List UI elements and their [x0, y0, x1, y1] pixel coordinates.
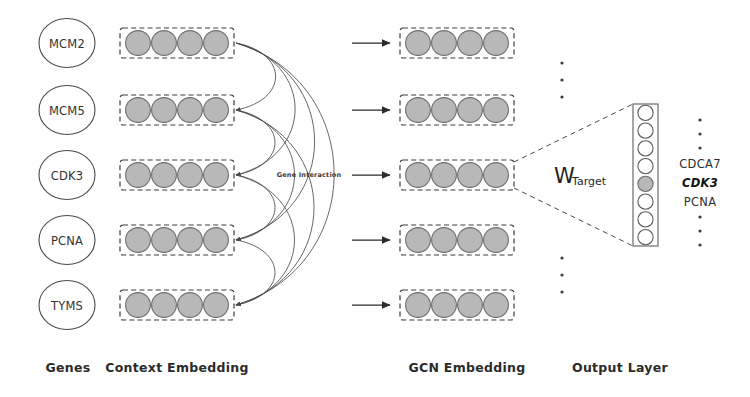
- embedding-unit-circle: [432, 98, 457, 123]
- embedding-unit-circle: [406, 98, 431, 123]
- architecture-diagram: MCM2MCM5CDK3PCNATYMS CDCA7CDK3PCNA Genes…: [0, 0, 750, 397]
- output-node[interactable]: [638, 159, 653, 174]
- ellipsis-dot: [560, 78, 563, 81]
- embedding-unit-circle: [406, 228, 431, 253]
- output-layer-column: [633, 104, 658, 246]
- context-embedding-box[interactable]: [120, 225, 234, 255]
- output-label-dot: [698, 215, 701, 218]
- gcn-embedding-box[interactable]: [400, 160, 514, 190]
- embedding-unit-circle: [152, 293, 177, 318]
- embedding-unit-circle: [458, 228, 483, 253]
- gene-interaction-label: Gene Interaction: [277, 171, 342, 179]
- section-label: Output Layer: [572, 360, 669, 375]
- embedding-unit-circle: [178, 31, 203, 56]
- context-embedding-box[interactable]: [120, 28, 234, 58]
- embedding-unit-circle: [204, 98, 229, 123]
- gcn-embedding-box[interactable]: [400, 225, 514, 255]
- gene-node[interactable]: MCM5: [39, 86, 95, 135]
- gene-name-label: PCNA: [51, 234, 83, 248]
- gene-node-group: MCM2MCM5CDK3PCNATYMS: [39, 19, 95, 330]
- section-label: GCN Embedding: [408, 360, 525, 375]
- embedding-unit-circle: [204, 293, 229, 318]
- embedding-unit-circle: [432, 31, 457, 56]
- gene-node[interactable]: PCNA: [39, 216, 95, 265]
- gcn-embedding-group: [400, 28, 514, 320]
- output-node[interactable]: [638, 194, 653, 209]
- gene-name-label: TYMS: [50, 299, 83, 313]
- output-node[interactable]: [638, 230, 653, 245]
- gene-interaction-edge: [236, 175, 275, 240]
- output-node-selected[interactable]: [638, 176, 653, 191]
- projection-line: [514, 104, 633, 162]
- gene-node[interactable]: MCM2: [39, 19, 95, 68]
- gene-interaction-edge: [236, 43, 295, 175]
- embedding-unit-circle: [204, 163, 229, 188]
- ellipsis-dot: [560, 61, 563, 64]
- embedding-unit-circle: [458, 163, 483, 188]
- embedding-unit-circle: [458, 31, 483, 56]
- section-label-group: GenesContext EmbeddingGCN EmbeddingOutpu…: [45, 360, 668, 375]
- ellipsis-dot: [560, 256, 563, 259]
- ellipsis-dot: [560, 273, 563, 276]
- gene-interaction-edge: [236, 175, 295, 305]
- section-label: Context Embedding: [105, 360, 249, 375]
- embedding-unit-circle: [484, 293, 509, 318]
- embedding-unit-circle: [178, 163, 203, 188]
- embedding-unit-circle: [126, 31, 151, 56]
- gcn-embedding-box[interactable]: [400, 290, 514, 320]
- output-label: PCNA: [684, 195, 717, 209]
- gene-interaction-edge: [236, 110, 275, 175]
- weight-subscript-label: Target: [571, 175, 607, 188]
- embedding-unit-circle: [204, 228, 229, 253]
- embedding-unit-circle: [204, 31, 229, 56]
- embedding-unit-circle: [152, 31, 177, 56]
- context-embedding-box[interactable]: [120, 95, 234, 125]
- ellipsis-dot: [560, 95, 563, 98]
- gene-node[interactable]: TYMS: [39, 281, 95, 330]
- output-label-dot: [698, 118, 701, 121]
- embedding-unit-circle: [178, 228, 203, 253]
- embedding-unit-circle: [484, 163, 509, 188]
- output-label-dot: [698, 243, 701, 246]
- projection-line: [514, 188, 633, 246]
- section-label: Genes: [45, 360, 90, 375]
- context-embedding-box[interactable]: [120, 160, 234, 190]
- output-label: CDCA7: [679, 157, 721, 171]
- embedding-unit-circle: [432, 228, 457, 253]
- embedding-unit-circle: [484, 228, 509, 253]
- gene-node[interactable]: CDK3: [39, 151, 95, 200]
- embedding-unit-circle: [432, 293, 457, 318]
- embedding-unit-circle: [152, 228, 177, 253]
- embedding-unit-circle: [484, 31, 509, 56]
- embedding-unit-circle: [406, 293, 431, 318]
- embedding-unit-circle: [126, 293, 151, 318]
- gene-interaction-edge: [236, 240, 275, 305]
- output-node[interactable]: [638, 105, 653, 120]
- output-layer-labels: CDCA7CDK3PCNA: [679, 118, 721, 246]
- output-label-dot: [698, 229, 701, 232]
- gcn-arrow-group: [352, 43, 390, 305]
- output-node[interactable]: [638, 123, 653, 138]
- output-label-highlighted: CDK3: [682, 176, 718, 190]
- context-embedding-box[interactable]: [120, 290, 234, 320]
- ellipsis-dot: [560, 290, 563, 293]
- gcn-embedding-box[interactable]: [400, 28, 514, 58]
- gene-name-label: MCM2: [49, 37, 85, 51]
- output-node[interactable]: [638, 141, 653, 156]
- gene-name-label: CDK3: [51, 169, 84, 183]
- embedding-unit-circle: [126, 228, 151, 253]
- embedding-unit-circle: [126, 98, 151, 123]
- output-label-dot: [698, 132, 701, 135]
- gene-name-label: MCM5: [49, 104, 85, 118]
- embedding-unit-circle: [432, 163, 457, 188]
- output-node[interactable]: [638, 212, 653, 227]
- embedding-unit-circle: [152, 163, 177, 188]
- embedding-unit-circle: [178, 98, 203, 123]
- output-label-dot: [698, 146, 701, 149]
- embedding-unit-circle: [484, 98, 509, 123]
- diagram-canvas: MCM2MCM5CDK3PCNATYMS CDCA7CDK3PCNA Genes…: [0, 0, 750, 397]
- embedding-unit-circle: [152, 98, 177, 123]
- gcn-embedding-box[interactable]: [400, 95, 514, 125]
- embedding-unit-circle: [178, 293, 203, 318]
- embedding-unit-circle: [458, 98, 483, 123]
